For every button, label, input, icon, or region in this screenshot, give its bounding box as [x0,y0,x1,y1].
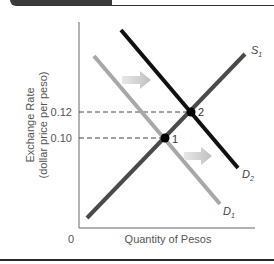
y-tick-0.12: 0.12 [51,106,72,118]
label-s1: S1 [251,44,262,58]
shift-arrow-icon [122,71,151,89]
origin-label: 0 [68,233,74,245]
label-d2: D2 [242,168,254,182]
x-axis-label: Quantity of Pesos [125,233,212,245]
demand-curve-d1 [94,56,220,204]
shift-arrow-icon [184,147,212,165]
equilibrium-point-1 [161,134,170,143]
equilibrium-point-2 [187,108,196,117]
bottom-rule [0,259,274,261]
label-d1: D1 [223,205,235,219]
chart: 0.12 0.10 0 Quantity of Pesos 1 2 S1 D1 … [0,0,274,264]
equilibrium-label-1: 1 [172,133,178,145]
y-tick-0.10: 0.10 [51,132,72,144]
demand-curve-d2 [121,30,238,168]
equilibrium-label-2: 2 [198,106,204,118]
